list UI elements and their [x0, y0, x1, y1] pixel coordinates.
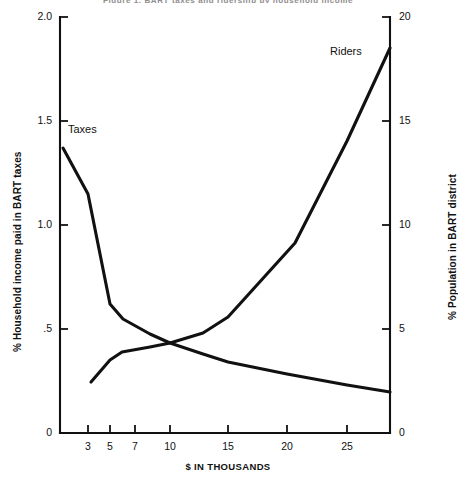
y-axis-left-title: % Household income paid in BART taxes [12, 151, 23, 352]
xtick-label-25: 25 [333, 441, 361, 452]
ytick-label-right-15: 15 [399, 115, 429, 126]
ytick-label-left-1.5: 1.5 [18, 115, 52, 126]
ytick-label-left-0.5: .5 [18, 323, 52, 334]
y-axis-right-title: % Population in BART district [447, 174, 458, 320]
xtick-label-5: 5 [96, 441, 124, 452]
xtick-label-15: 15 [214, 441, 242, 452]
x-axis-title: $ IN THOUSANDS [0, 461, 456, 472]
ytick-label-right-0: 0 [399, 427, 429, 438]
x-axis-ticks [88, 425, 347, 433]
series-line-riders [91, 48, 390, 382]
xtick-label-7: 7 [121, 441, 149, 452]
ytick-label-right-5: 5 [399, 323, 429, 334]
left-axis-ticks [60, 17, 68, 433]
ytick-label-left-1.0: 1.0 [18, 219, 52, 230]
ytick-label-right-10: 10 [399, 219, 429, 230]
ytick-label-right-20: 20 [399, 11, 429, 22]
ytick-label-left-2.0: 2.0 [18, 11, 52, 22]
xtick-label-10: 10 [156, 441, 184, 452]
right-axis-ticks [382, 17, 390, 433]
series-label-taxes: Taxes [68, 123, 97, 135]
ytick-label-left-0: 0 [18, 427, 52, 438]
xtick-label-20: 20 [273, 441, 301, 452]
series-line-taxes [63, 148, 390, 392]
series-label-riders: Riders [330, 45, 362, 57]
